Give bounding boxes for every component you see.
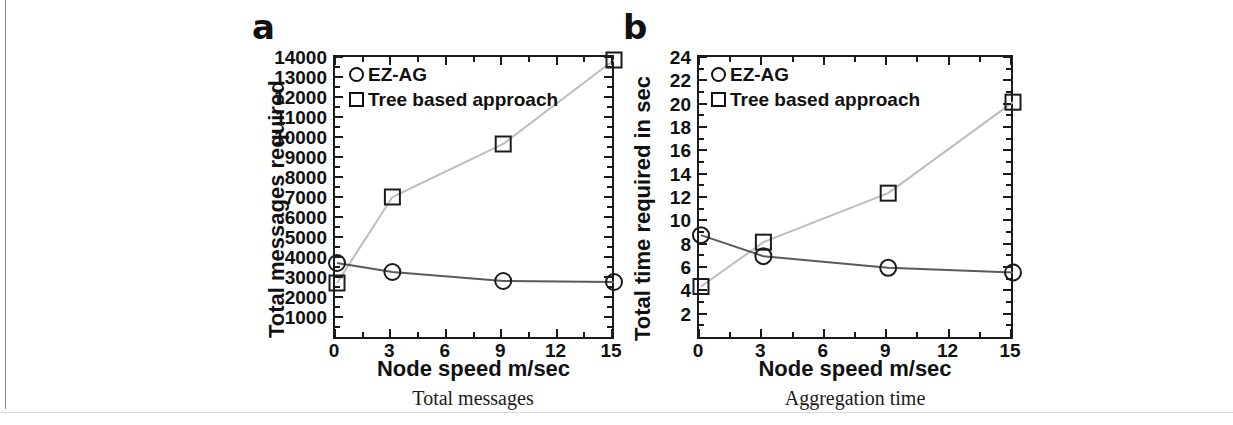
legend-item-tree: Tree based approach — [348, 87, 558, 111]
axis-tick — [699, 91, 704, 93]
axis-tick — [1006, 324, 1011, 326]
axis-tick — [729, 332, 731, 337]
axis-tick — [335, 116, 343, 118]
axis-tick — [335, 306, 340, 308]
axis-tick — [699, 68, 704, 70]
axis-tick — [1006, 278, 1011, 280]
axis-tick — [335, 206, 340, 208]
axis-tick — [335, 326, 340, 328]
axis-tick — [699, 149, 707, 151]
legend-label-ezag: EZ-AG — [368, 65, 427, 84]
axis-tick — [760, 329, 762, 337]
sub-caption-a: Total messages — [318, 388, 628, 408]
page-left-rule — [5, 0, 6, 409]
y-tick-label: 14000 — [241, 48, 327, 67]
axis-tick — [1003, 313, 1011, 315]
data-point-circle — [384, 264, 400, 280]
axis-tick — [699, 138, 704, 140]
circle-marker-icon — [711, 67, 726, 82]
legend-item-ezag: EZ-AG — [348, 62, 558, 86]
legend-a: EZ-AG Tree based approach — [348, 62, 558, 112]
axis-tick — [1006, 301, 1011, 303]
square-marker-icon — [711, 92, 726, 107]
axis-tick — [335, 186, 340, 188]
axis-tick — [699, 196, 707, 198]
axis-tick — [979, 332, 981, 337]
axis-tick — [335, 56, 343, 58]
axis-tick — [699, 254, 704, 256]
axis-tick — [335, 216, 343, 218]
axis-tick — [335, 276, 343, 278]
data-point-square — [496, 137, 511, 152]
data-point-circle — [880, 260, 896, 276]
panel-letter-a: a — [252, 10, 275, 44]
axis-tick — [1003, 149, 1011, 151]
axis-tick — [699, 266, 707, 268]
axis-tick — [334, 57, 336, 65]
panel-a: a 10002000300040005000600070008000900010… — [230, 0, 660, 425]
axis-tick — [528, 332, 530, 337]
axis-tick — [1006, 184, 1011, 186]
axis-tick — [699, 219, 707, 221]
axis-tick — [335, 76, 343, 78]
axis-tick — [335, 106, 340, 108]
axis-tick — [1010, 57, 1012, 65]
axis-tick — [335, 96, 343, 98]
axis-tick — [335, 236, 343, 238]
axis-tick — [335, 86, 340, 88]
axis-tick — [335, 266, 340, 268]
figure-root: a 10002000300040005000600070008000900010… — [0, 0, 1233, 425]
data-point-circle — [495, 273, 511, 289]
axis-tick — [1003, 219, 1011, 221]
axis-tick — [699, 324, 704, 326]
axis-tick — [445, 329, 447, 337]
axis-tick — [473, 332, 475, 337]
axis-tick — [698, 57, 700, 65]
axis-tick — [1006, 91, 1011, 93]
axis-tick — [1003, 289, 1011, 291]
axis-tick — [854, 332, 856, 337]
axis-tick — [948, 57, 950, 65]
axis-tick — [1006, 254, 1011, 256]
axis-tick — [335, 146, 340, 148]
axis-tick — [335, 126, 340, 128]
circle-marker-icon — [349, 67, 364, 82]
axis-tick — [699, 56, 707, 58]
axis-tick — [699, 173, 707, 175]
axis-tick — [699, 184, 704, 186]
axis-tick — [1003, 196, 1011, 198]
y-axis-title-a: Total messages required — [266, 80, 288, 338]
data-point-square — [881, 186, 896, 201]
panel-b: b 24681012141618202224 03691215 EZ-AG Tr… — [600, 0, 1070, 425]
axis-tick — [335, 286, 340, 288]
data-point-circle — [693, 227, 709, 243]
axis-tick — [698, 329, 700, 337]
axis-tick — [699, 243, 707, 245]
axis-tick — [583, 332, 585, 337]
axis-tick — [335, 296, 343, 298]
x-axis-title-a: Node speed m/sec — [333, 358, 614, 380]
sub-caption-b: Aggregation time — [700, 388, 1010, 408]
y-tick-label: 24 — [605, 48, 691, 67]
legend-b: EZ-AG Tree based approach — [710, 62, 920, 112]
axis-tick — [792, 332, 794, 337]
axis-tick — [389, 329, 391, 337]
axis-tick — [335, 226, 340, 228]
series-line-ezag — [337, 263, 614, 282]
legend-label-ezag: EZ-AG — [730, 65, 789, 84]
axis-tick — [1003, 126, 1011, 128]
axis-tick — [362, 332, 364, 337]
axis-tick — [335, 66, 340, 68]
axis-tick — [699, 161, 704, 163]
axis-tick — [1006, 208, 1011, 210]
axis-tick — [916, 332, 918, 337]
series-line-tree — [701, 102, 1013, 286]
legend-label-tree: Tree based approach — [368, 90, 558, 109]
axis-tick — [335, 196, 343, 198]
legend-label-tree: Tree based approach — [730, 90, 920, 109]
axis-tick — [699, 114, 704, 116]
axis-tick — [335, 156, 343, 158]
axis-tick — [335, 176, 343, 178]
legend-item-tree: Tree based approach — [710, 87, 920, 111]
axis-tick — [1003, 266, 1011, 268]
